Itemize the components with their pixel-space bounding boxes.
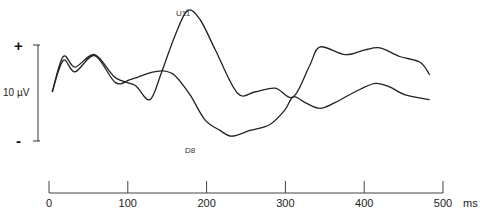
scale-bar: + - 10 µV xyxy=(3,37,40,149)
x-axis-unit-label: ms xyxy=(463,197,478,209)
series-label-d8: D8 xyxy=(185,146,196,155)
series-group xyxy=(52,10,429,136)
scale-bar-label: 10 µV xyxy=(3,87,30,98)
polarity-negative-label: - xyxy=(16,132,21,149)
series-label-u11: U11 xyxy=(176,9,191,18)
x-tick-label-300: 300 xyxy=(276,197,294,209)
x-tick-label-400: 400 xyxy=(355,197,373,209)
x-tick-label-200: 200 xyxy=(197,197,215,209)
polarity-positive-label: + xyxy=(14,37,23,54)
x-tick-label-0: 0 xyxy=(46,197,52,209)
x-axis: 0100200300400500 ms xyxy=(46,181,478,209)
series-line-u11 xyxy=(52,10,429,100)
x-tick-label-100: 100 xyxy=(119,197,137,209)
erp-chart: + - 10 µV 0100200300400500 ms U11 D8 xyxy=(0,0,480,221)
x-tick-label-500: 500 xyxy=(434,197,452,209)
